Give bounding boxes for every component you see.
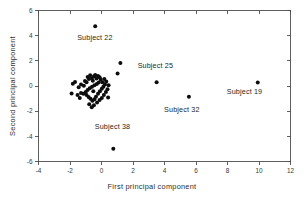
data-point — [118, 61, 122, 65]
x-tick-label: -4 — [36, 167, 42, 174]
data-point — [73, 80, 77, 84]
data-point — [91, 79, 95, 83]
point-annotation-label: Subject 19 — [227, 87, 262, 96]
point-annotation-label: Subject 25 — [138, 61, 173, 70]
data-point — [111, 147, 115, 151]
x-tick-label: 4 — [163, 167, 167, 174]
data-point — [76, 93, 80, 97]
y-axis-title: Second principal component — [8, 36, 17, 136]
data-point — [116, 71, 120, 75]
x-tick-label: 6 — [194, 167, 198, 174]
principal-component-scatter-chart: -4-2024681012 -6-4-20246 Subject 22Subje… — [0, 0, 305, 199]
data-point — [187, 95, 191, 99]
x-tick-label: 12 — [287, 167, 295, 174]
data-point — [107, 83, 111, 87]
x-tick-label: 2 — [131, 167, 135, 174]
data-point — [100, 80, 104, 84]
point-annotation-label: Subject 32 — [164, 105, 199, 114]
x-tick-label: 8 — [226, 167, 230, 174]
x-tick-label: 10 — [255, 167, 263, 174]
data-point — [155, 80, 159, 84]
data-point — [82, 84, 86, 88]
y-tick-label: -2 — [27, 107, 33, 114]
data-point — [106, 96, 110, 100]
x-tick-label: 0 — [100, 167, 104, 174]
x-axis-title: First principal component — [108, 182, 197, 191]
y-tick-label: 2 — [29, 57, 33, 64]
y-tick-label: 4 — [29, 32, 33, 39]
y-tick-label: 6 — [29, 7, 33, 14]
y-tick-label: -4 — [27, 133, 33, 140]
point-annotation-label: Subject 22 — [77, 33, 112, 42]
data-point — [95, 101, 99, 105]
y-tick-label: 0 — [29, 82, 33, 89]
data-point — [91, 89, 95, 93]
data-point — [87, 102, 91, 106]
data-point — [93, 24, 97, 28]
point-annotation-label: Subject 38 — [95, 122, 130, 131]
y-tick-label: -6 — [27, 158, 33, 165]
x-tick-label: -2 — [67, 167, 73, 174]
data-point — [256, 80, 260, 84]
scatter-plot-figure: -4-2024681012 -6-4-20246 Subject 22Subje… — [0, 0, 305, 199]
data-point — [70, 92, 74, 96]
data-point — [79, 91, 83, 95]
